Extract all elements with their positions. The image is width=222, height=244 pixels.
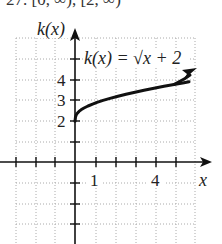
- graph-canvas: 1 4 2 3 4 k(x) x k(x) = √x + 2: [0, 0, 222, 244]
- x-axis-label: x: [198, 170, 207, 190]
- y-tick-label-3: 3: [57, 91, 66, 110]
- x-tick-label-1: 1: [90, 171, 99, 190]
- y-tick-label-2: 2: [57, 112, 66, 131]
- x-tick-label-4: 4: [151, 171, 160, 190]
- function-label: k(x) = √x + 2: [84, 48, 181, 69]
- y-axis-label: k(x): [37, 19, 65, 40]
- function-curve: [75, 72, 187, 121]
- y-tick-label-4: 4: [57, 71, 66, 90]
- grid: [16, 38, 195, 244]
- function-curve-line: [75, 82, 189, 121]
